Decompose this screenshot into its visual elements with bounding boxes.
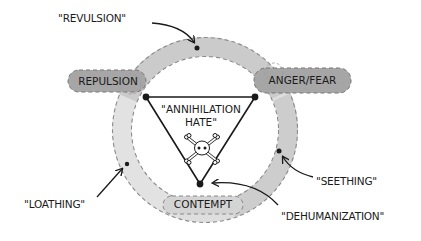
center-title-line1: "ANNIHILATION — [151, 103, 251, 116]
vertex-anger-dot — [252, 94, 259, 101]
center-title: "ANNIHILATION HATE" — [151, 103, 251, 129]
node-anger-fear-label: ANGER/FEAR — [256, 74, 349, 86]
hate-triangle-diagram: "REVULSION" "SEETHING" "LOATHING" "DEHUM… — [0, 0, 421, 241]
center-title-line2: HATE" — [151, 116, 251, 129]
node-contempt-label: CONTEMPT — [165, 198, 241, 210]
node-repulsion-label: REPULSION — [72, 75, 144, 87]
annotation-loathing: "LOATHING" — [24, 198, 85, 210]
annotation-revulsion: "REVULSION" — [58, 12, 126, 24]
dot-revulsion — [195, 46, 200, 51]
annotation-dehumanization: "DEHUMANIZATION" — [281, 210, 384, 222]
dot-seething — [277, 149, 282, 154]
vertex-contempt-dot — [197, 181, 204, 188]
vertex-repulsion-dot — [143, 94, 150, 101]
annotation-seething: "SEETHING" — [316, 175, 377, 187]
dot-loathing — [125, 162, 129, 166]
arrow-loathing — [97, 169, 122, 197]
